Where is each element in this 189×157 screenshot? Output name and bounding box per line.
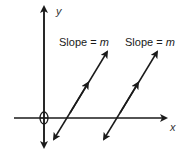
coordinate-diagram: y x Slope = m Slope = m <box>0 0 189 157</box>
y-axis-label: y <box>55 5 63 17</box>
slope-label-2-prefix: Slope = <box>125 36 166 48</box>
slope-label-2: Slope = m <box>125 36 175 48</box>
slope-label-2-var: m <box>166 36 175 48</box>
slope-label-1-prefix: Slope = <box>59 36 100 48</box>
parallel-line-1 <box>54 52 107 139</box>
x-axis-label: x <box>169 121 176 133</box>
slope-label-1-var: m <box>100 36 109 48</box>
slope-label-1: Slope = m <box>59 36 109 48</box>
parallel-line-2 <box>104 52 157 139</box>
